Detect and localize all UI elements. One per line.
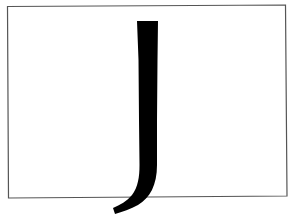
letter-figure xyxy=(0,0,293,220)
letter-j-illustration xyxy=(0,0,293,220)
